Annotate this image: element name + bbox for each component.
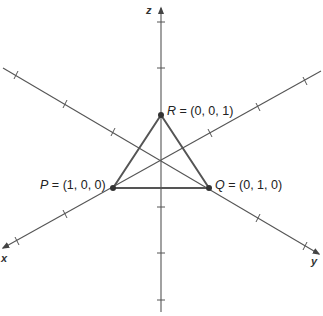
point-r — [158, 112, 164, 118]
point-q-label: Q = (0, 1, 0) — [215, 178, 282, 192]
point-q-coords: (0, 1, 0) — [239, 178, 282, 192]
coordinate-diagram: z x y R = (0, 0, 1) P = (1, 0, 0) Q = (0… — [0, 0, 323, 316]
point-p-label: P = (1, 0, 0) — [40, 178, 106, 192]
y-axis-label: y — [310, 255, 318, 267]
point-q — [206, 185, 212, 191]
point-r-equals: = — [180, 104, 187, 118]
x-axis — [3, 71, 321, 248]
point-r-label: R = (0, 0, 1) — [167, 104, 233, 118]
z-axis-label: z — [145, 4, 152, 16]
point-q-name: Q — [215, 178, 225, 192]
point-r-name: R — [167, 104, 176, 118]
point-p-coords: (1, 0, 0) — [63, 178, 106, 192]
x-axis-label: x — [0, 252, 8, 264]
point-p-name: P — [40, 178, 49, 192]
point-q-equals: = — [228, 178, 235, 192]
point-r-coords: (0, 0, 1) — [190, 104, 233, 118]
point-p-equals: = — [52, 178, 59, 192]
point-p — [110, 185, 116, 191]
